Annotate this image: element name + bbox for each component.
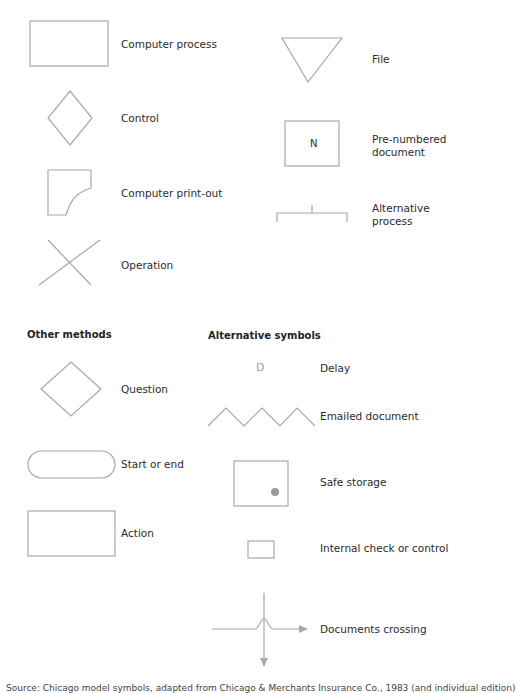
label-internal-check: Internal check or control <box>320 542 448 555</box>
source-caption: Source: Chicago model symbols, adapted f… <box>6 683 516 693</box>
label-alternative-process: Alternative process <box>372 202 442 228</box>
label-pre-numbered-document: Pre-numbered document <box>372 133 452 159</box>
label-file: File <box>372 53 390 66</box>
delay-symbol: D <box>256 361 264 374</box>
computer-process-symbol <box>30 21 108 66</box>
pre-numbered-mark: N <box>310 137 317 150</box>
control-symbol <box>48 91 92 145</box>
heading-other-methods: Other methods <box>27 329 112 340</box>
emailed-document-symbol <box>208 408 315 426</box>
documents-crossing-symbol <box>212 593 308 667</box>
label-computer-process: Computer process <box>121 38 217 51</box>
label-delay: Delay <box>320 362 350 375</box>
internal-check-symbol <box>248 541 274 558</box>
arrow-right-icon <box>299 625 308 633</box>
start-or-end-symbol <box>28 451 115 478</box>
label-action: Action <box>121 527 154 540</box>
safe-storage-symbol <box>234 461 288 506</box>
label-control: Control <box>121 112 159 125</box>
heading-alternative-symbols: Alternative symbols <box>208 330 321 341</box>
question-symbol <box>41 362 101 416</box>
label-question: Question <box>121 383 168 396</box>
label-computer-printout: Computer print-out <box>121 187 222 200</box>
label-start-or-end: Start or end <box>121 458 184 471</box>
file-symbol <box>282 38 342 82</box>
safe-storage-dot <box>271 488 279 496</box>
arrow-down-icon <box>260 658 268 667</box>
label-operation: Operation <box>121 259 173 272</box>
label-emailed-document: Emailed document <box>320 410 419 423</box>
label-documents-crossing: Documents crossing <box>320 623 427 636</box>
computer-printout-symbol <box>48 170 91 215</box>
operation-symbol-line-b <box>39 240 100 285</box>
action-symbol <box>28 511 115 556</box>
crossing-horizontal-line <box>212 619 300 629</box>
label-safe-storage: Safe storage <box>320 476 386 489</box>
alternative-process-symbol <box>277 205 347 222</box>
